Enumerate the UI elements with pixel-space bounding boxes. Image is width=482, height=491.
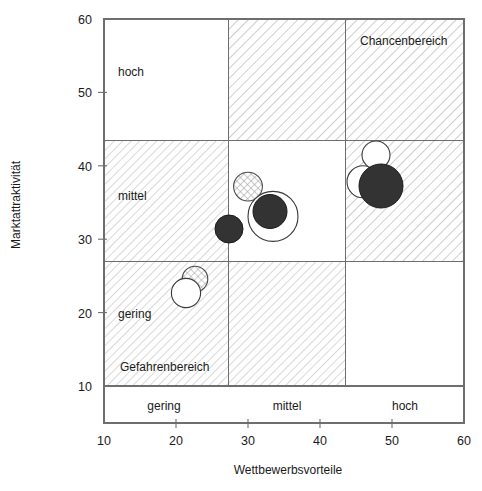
- y-tick-label-50: 50: [78, 86, 92, 100]
- region-label-chancenbereich: Chancenbereich: [360, 34, 447, 48]
- x-tick-label-60: 60: [457, 434, 471, 448]
- y-zone-label-gering: gering: [118, 307, 151, 321]
- y-axis: 60 50 40 30 20 10: [78, 13, 107, 394]
- x-tick-label-20: 20: [169, 434, 183, 448]
- x-tick-label-40: 40: [313, 434, 327, 448]
- y-zone-label-hoch: hoch: [118, 65, 144, 79]
- x-tick-label-50: 50: [385, 434, 399, 448]
- y-tick-label-20: 20: [78, 307, 92, 321]
- chart-container: 60 50 40 30 20 10 hoch mittel gering Cha…: [0, 0, 482, 491]
- bubble-dark-left-mid[interactable]: [215, 215, 243, 243]
- x-zone-label-hoch: hoch: [392, 399, 418, 413]
- y-tick-label-60: 60: [78, 13, 92, 27]
- y-zone-label-mittel: mittel: [118, 189, 147, 203]
- bubble-dark-center-mid[interactable]: [253, 195, 287, 229]
- y-tick-label-10: 10: [78, 380, 92, 394]
- x-tick-label-30: 30: [241, 434, 255, 448]
- x-zone-label-mittel: mittel: [273, 399, 302, 413]
- bubble-white-low[interactable]: [171, 278, 200, 307]
- y-tick-label-30: 30: [78, 233, 92, 247]
- y-tick-label-40: 40: [78, 160, 92, 174]
- x-axis-title: Wettbewerbsvorteile: [234, 463, 343, 477]
- bubble-dark-right[interactable]: [359, 164, 403, 208]
- region-label-gefahrenbereich: Gefahrenbereich: [120, 360, 209, 374]
- x-axis: gering mittel hoch 10 20 30 40 50 60: [97, 386, 471, 448]
- portfolio-matrix-chart: 60 50 40 30 20 10 hoch mittel gering Cha…: [0, 0, 482, 491]
- y-axis-title: Marktattraktivität: [9, 160, 23, 249]
- x-zone-label-gering: gering: [147, 399, 180, 413]
- x-tick-label-10: 10: [97, 434, 111, 448]
